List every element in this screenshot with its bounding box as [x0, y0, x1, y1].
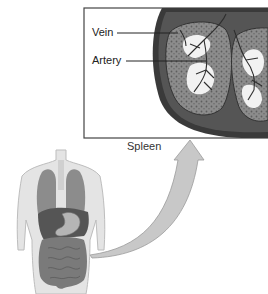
- spleen-caption: Spleen: [127, 140, 161, 152]
- vein-label: Vein: [92, 26, 113, 38]
- artery-label: Artery: [92, 54, 121, 66]
- human-torso: [17, 150, 105, 294]
- spleen-anatomy-figure: Vein Artery Spleen: [0, 0, 268, 294]
- callout-arrow: [90, 140, 204, 258]
- intestines: [39, 237, 87, 289]
